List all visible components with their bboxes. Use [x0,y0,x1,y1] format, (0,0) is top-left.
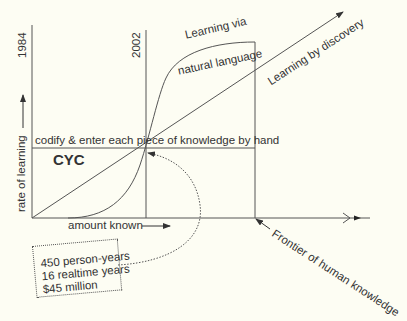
year-1984-label: 1984 [17,32,29,58]
y-axis-label: rate of learning [16,135,28,212]
codify-label: codify & enter each piece of knowledge b… [35,135,279,147]
cyc-label: CYC [53,152,85,167]
frontier-pointer [256,219,270,229]
x-axis-label: amount known [68,220,143,232]
discovery-line [32,12,343,218]
learning-curve [68,42,255,218]
cost-box: 450 person-years 16 realtime years $45 m… [32,239,122,298]
dotted-connector [118,153,200,265]
year-2002-label: 2002 [131,32,143,58]
x-axis-arrow-icon [354,216,361,221]
